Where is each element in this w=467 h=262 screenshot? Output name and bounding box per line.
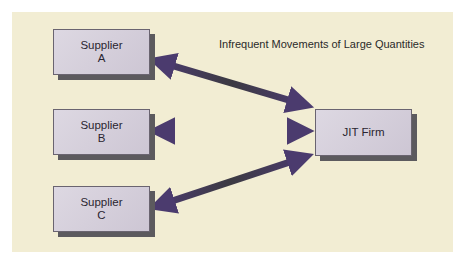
supplier-b-name: Supplier	[80, 119, 122, 132]
arrow-c-jit	[160, 158, 302, 205]
supplier-c-name: Supplier	[80, 196, 122, 209]
jit-firm-box: JIT Firm	[315, 109, 412, 156]
supplier-b-box: Supplier B	[53, 109, 150, 155]
supplier-c-letter: C	[97, 209, 105, 222]
supplier-c-box: Supplier C	[53, 186, 150, 232]
supplier-a-name: Supplier	[80, 39, 122, 52]
arrow-a-jit	[160, 62, 302, 104]
supplier-a-box: Supplier A	[53, 29, 150, 75]
supplier-b-letter: B	[98, 132, 106, 145]
supplier-a-letter: A	[98, 52, 106, 65]
jit-firm-name: JIT Firm	[343, 126, 385, 139]
